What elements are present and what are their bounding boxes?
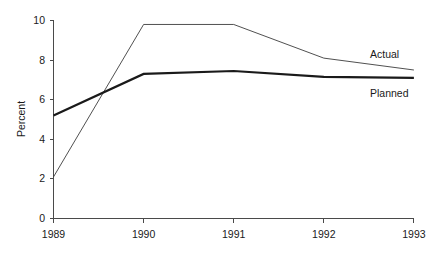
y-tick-label-10: 10 [33, 14, 45, 26]
y-tick-label-2: 2 [39, 172, 45, 184]
x-tick-label-1989: 1989 [42, 228, 66, 240]
x-tick-label-1990: 1990 [132, 228, 156, 240]
y-tick-label-0: 0 [39, 212, 45, 224]
line-chart: 0 2 4 6 8 10 1989 1990 1991 1992 1993 Pe… [0, 0, 440, 268]
series-label-actual: Actual [370, 48, 399, 60]
series-label-planned: Planned [370, 87, 409, 99]
y-tick-label-4: 4 [39, 133, 45, 145]
y-tick-label-8: 8 [39, 54, 45, 66]
y-axis-title: Percent [15, 101, 27, 137]
x-tick-label-1992: 1992 [312, 228, 336, 240]
x-tick-label-1993: 1993 [402, 228, 426, 240]
chart-canvas: 0 2 4 6 8 10 1989 1990 1991 1992 1993 Pe… [0, 0, 440, 268]
x-tick-label-1991: 1991 [222, 228, 246, 240]
y-tick-label-6: 6 [39, 93, 45, 105]
chart-background [0, 0, 440, 268]
